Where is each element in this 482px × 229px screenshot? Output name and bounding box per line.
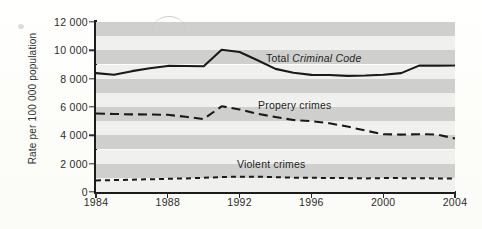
y-tick-label: 2 000 [60,158,88,170]
series-label-property-crimes: Propery crimes [258,99,331,111]
y-tick-label: 12 000 [54,16,88,28]
x-tick-mark [383,193,384,198]
y-axis-ticks: 02 0004 0006 0008 00010 00012 000 [0,0,92,229]
series-label-violent-crimes: Violent crimes [237,158,306,170]
y-tick-label: 6 000 [60,101,88,113]
x-tick-mark [239,193,240,198]
series-label-total-italic: Criminal Code [292,52,361,64]
y-tick-label: 10 000 [54,44,88,56]
series-label-total-criminal-code: Total Criminal Code [266,52,361,64]
x-tick-mark [454,193,455,198]
chart-figure: Rate per 100 000 population 02 0004 0006… [0,0,482,229]
series-line-propery-crimes [96,106,455,138]
series-label-total-plain: Total [266,52,292,64]
x-tick-mark [311,193,312,198]
y-tick-label: 8 000 [60,73,88,85]
x-tick-mark [95,193,96,198]
x-tick-mark [167,193,168,198]
series-line-violent-crimes [96,177,455,181]
y-tick-label: 4 000 [60,129,88,141]
